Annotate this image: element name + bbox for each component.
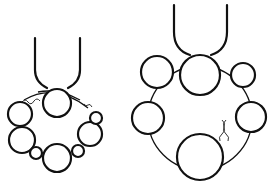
right-bead-lower-right (236, 102, 266, 132)
left-bead-3 (30, 147, 42, 159)
left-bead-5 (72, 145, 84, 157)
right-bead-upper-left (141, 56, 173, 88)
left-bead-4 (43, 144, 71, 172)
right-bead-lower-left (132, 102, 164, 134)
right-bead-bottom (177, 134, 223, 180)
left-bead-1 (8, 102, 32, 126)
left-hanging-bead (43, 89, 71, 117)
left-hook (35, 38, 80, 88)
right-bracelet-figure (132, 5, 266, 180)
left-bead-6 (78, 122, 102, 146)
left-bead-7 (90, 112, 102, 124)
right-hook (174, 5, 227, 55)
right-top-bead (180, 55, 220, 95)
right-bead-upper-right (231, 63, 255, 87)
bracelet-illustration (0, 0, 274, 188)
right-clasp-twist (219, 120, 228, 141)
left-bracelet-figure (8, 38, 102, 172)
